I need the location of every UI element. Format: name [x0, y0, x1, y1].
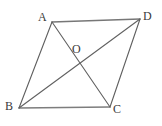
side-CB — [19, 107, 110, 108]
geometry-canvas — [0, 0, 162, 126]
diagonal-BD — [19, 19, 140, 108]
side-AD — [52, 19, 140, 22]
side-BA — [19, 22, 52, 108]
vertex-label-a: A — [38, 11, 47, 23]
vertex-label-b: B — [5, 100, 13, 112]
vertex-label-o: O — [72, 43, 81, 55]
diagonal-AC — [52, 22, 110, 107]
vertex-label-d: D — [143, 10, 152, 22]
side-DC — [110, 19, 140, 107]
geometry-figure: A D B C O — [0, 0, 162, 126]
vertex-label-c: C — [113, 103, 121, 115]
